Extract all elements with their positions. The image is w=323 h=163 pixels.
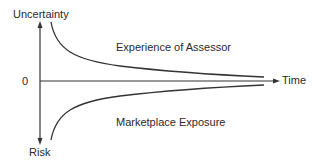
arrow-right-icon: [273, 79, 280, 84]
y-axis-top-label: Uncertainty: [13, 9, 69, 20]
uncertainty-risk-diagram: Uncertainty Risk 0 Time Experience of As…: [0, 0, 323, 163]
upper-curve-label: Experience of Assessor: [116, 42, 231, 53]
vertical-axis: [38, 21, 43, 145]
marketplace-curve: [51, 85, 264, 140]
arrow-down-icon: [38, 138, 43, 145]
arrow-up-icon: [38, 21, 43, 28]
origin-label: 0: [22, 76, 28, 87]
time-axis: [40, 79, 280, 84]
lower-curve-label: Marketplace Exposure: [116, 117, 225, 128]
x-axis-label: Time: [282, 75, 306, 86]
diagram-canvas: [0, 0, 323, 163]
y-axis-bottom-label: Risk: [29, 147, 50, 158]
